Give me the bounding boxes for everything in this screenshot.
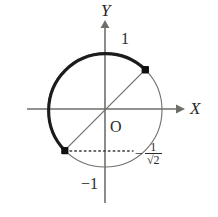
fraction-numerator: 1 bbox=[147, 141, 159, 153]
y-axis-tick-label-one: 1 bbox=[121, 31, 129, 47]
bold-arc bbox=[49, 54, 146, 151]
y-axis-tick-label-minus-one: −1 bbox=[81, 176, 98, 192]
fraction: 1 √2 bbox=[145, 141, 162, 166]
minus-sign: − bbox=[135, 147, 143, 161]
x-axis-label: X bbox=[190, 100, 200, 117]
y-axis-label: Y bbox=[101, 2, 110, 19]
x-value-label-minus-one-over-sqrt-two: − 1 √2 bbox=[135, 141, 162, 166]
unit-circle-figure: Y X 1 −1 O − 1 √2 bbox=[0, 0, 218, 217]
y-axis-arrow-icon bbox=[101, 20, 110, 28]
figure-canvas bbox=[0, 0, 218, 217]
point-marker-lower-left bbox=[61, 147, 68, 154]
fraction-denominator: √2 bbox=[145, 154, 162, 166]
origin-label: O bbox=[110, 119, 122, 135]
point-marker-upper-right bbox=[142, 66, 149, 73]
x-axis-arrow-icon bbox=[176, 105, 185, 114]
